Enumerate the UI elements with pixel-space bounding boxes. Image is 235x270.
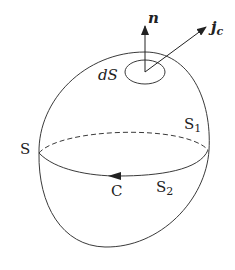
label-s2-subscript: 2 (166, 185, 173, 198)
label-contour-c: C (111, 184, 122, 199)
label-s1-subscript: 1 (194, 122, 201, 135)
contour-back-dashed (39, 132, 208, 153)
closed-surface-outline (39, 52, 209, 247)
label-jc-subscript: c (216, 25, 223, 38)
label-ds: dS (98, 68, 118, 83)
label-surface-s: S (20, 142, 30, 157)
contour-direction-arrow-icon (108, 172, 121, 180)
contour-c-front (39, 150, 208, 176)
current-density-arrow (145, 27, 206, 72)
label-s1: S1 (184, 117, 201, 134)
label-s2: S2 (156, 180, 173, 197)
label-current-density-jc: jc (211, 20, 223, 37)
surface-diagram (0, 0, 235, 270)
label-normal-n: n (148, 11, 159, 26)
